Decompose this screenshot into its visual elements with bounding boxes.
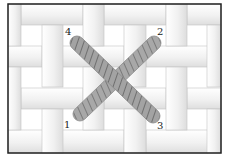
fabric-strip-vertical [207, 109, 221, 153]
fabric-strip-vertical [166, 4, 187, 46]
fabric-strip-vertical [8, 67, 21, 130]
fabric-strip-vertical [8, 4, 21, 46]
fabric-strip-vertical [83, 4, 104, 46]
fabric-strip-horizontal [146, 130, 208, 153]
fabric-strip-vertical [207, 25, 221, 87]
point-label-3: 3 [157, 121, 163, 131]
fabric-strip-horizontal [104, 4, 166, 25]
fabric-strip-vertical [42, 109, 63, 153]
fabric-strip-horizontal [62, 130, 124, 153]
cross-stitch-diagram: 1 2 3 4 [0, 0, 229, 159]
point-label-1: 1 [64, 120, 70, 130]
fabric-strip-vertical [42, 25, 63, 87]
point-label-2: 2 [157, 27, 163, 37]
fabric-strip-horizontal [8, 46, 42, 67]
point-label-4: 4 [65, 27, 71, 37]
fabric-strip-horizontal [187, 88, 221, 109]
fabric-strip-horizontal [21, 88, 83, 109]
fabric-strip-horizontal [187, 4, 221, 25]
fabric-strip-horizontal [21, 4, 83, 25]
fabric-strip-vertical [166, 67, 187, 130]
diagram-canvas [0, 0, 229, 159]
